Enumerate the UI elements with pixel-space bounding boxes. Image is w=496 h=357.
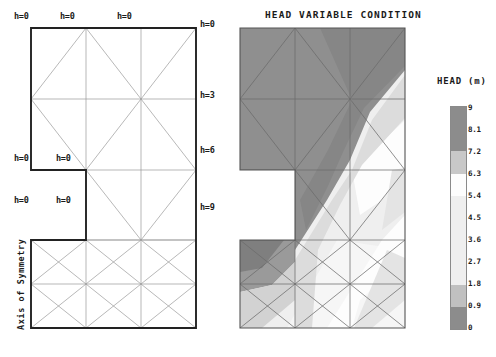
mesh-right-label-h0: h=0	[200, 20, 214, 29]
colorbar-band-2	[451, 151, 466, 173]
contour-panel	[232, 0, 422, 357]
colorbar-band-4	[451, 196, 466, 218]
colorbar-tick-9: 9	[468, 103, 472, 112]
mesh-svg	[0, 0, 232, 357]
mesh-interior-lines	[31, 28, 196, 328]
mesh-top-label-1: h=0	[14, 12, 28, 21]
colorbar-band-7	[451, 262, 466, 284]
colorbar-band-8	[451, 285, 466, 307]
mesh-step-label-1: h=0	[14, 154, 28, 163]
figure-root: h=0 h=0 h=0 h=0 h=3 h=6 h=9 h=0 h=0 h=0 …	[0, 0, 496, 357]
mesh-right-label-h3: h=3	[200, 91, 214, 100]
colorbar-tick-81: 8.1	[468, 125, 481, 134]
colorbar-tick-72: 7.2	[468, 147, 481, 156]
colorbar-tick-18: 1.8	[468, 279, 481, 288]
colorbar-tick-27: 2.7	[468, 257, 481, 266]
colorbar-tick-45: 4.5	[468, 213, 481, 222]
mesh-right-label-h6: h=6	[200, 146, 214, 155]
colorbar-band-3	[451, 174, 466, 196]
colorbar-tick-36: 3.6	[468, 235, 481, 244]
mesh-step-label-3: h=0	[14, 196, 28, 205]
colorbar-band-0	[451, 107, 466, 129]
legend-title: HEAD (m)	[437, 76, 487, 86]
colorbar	[450, 106, 467, 330]
contour-bands	[232, 0, 422, 357]
mesh-top-label-3: h=0	[117, 12, 131, 21]
mesh-panel	[0, 0, 232, 357]
mesh-step-label-4: h=0	[56, 196, 70, 205]
contour-svg	[232, 0, 422, 357]
mesh-right-label-h9: h=9	[200, 203, 214, 212]
colorbar-band-9	[451, 307, 466, 329]
colorbar-tick-0: 0	[468, 323, 472, 332]
colorbar-band-1	[451, 129, 466, 151]
axis-of-symmetry-label: Axis of Symmetry	[16, 239, 26, 330]
mesh-top-label-2: h=0	[60, 12, 74, 21]
colorbar-tick-54: 5.4	[468, 191, 481, 200]
colorbar-ticks: 9 8.1 7.2 6.3 5.4 4.5 3.6 2.7 1.8 0.9 0	[468, 100, 494, 334]
mesh-step-label-2: h=0	[56, 154, 70, 163]
colorbar-band-6	[451, 240, 466, 262]
mesh-outer-boundary	[31, 28, 196, 328]
colorbar-tick-63: 6.3	[468, 169, 481, 178]
colorbar-tick-09: 0.9	[468, 301, 481, 310]
colorbar-band-5	[451, 218, 466, 240]
